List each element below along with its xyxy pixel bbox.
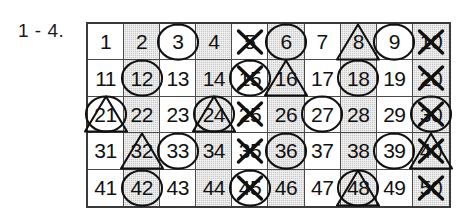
grid-cell[interactable]: 26 — [268, 97, 304, 133]
cell-number-label: 5 — [244, 31, 255, 52]
cell-number-label: 25 — [239, 104, 261, 125]
grid-cell[interactable]: 20 — [413, 60, 449, 96]
grid-cell[interactable]: 7 — [305, 24, 341, 60]
cell-number-label: 34 — [203, 140, 225, 161]
grid-cell[interactable]: 35 — [232, 133, 268, 169]
grid-cell[interactable]: 48 — [341, 170, 377, 206]
grid-cell[interactable]: 24 — [196, 97, 232, 133]
grid-cell[interactable]: 17 — [305, 60, 341, 96]
grid-cell[interactable]: 47 — [305, 170, 341, 206]
cell-number-label: 2 — [136, 31, 147, 52]
cell-number-label: 8 — [353, 31, 364, 52]
grid-cell[interactable]: 49 — [377, 170, 413, 206]
cell-number-label: 50 — [420, 177, 442, 198]
grid-cell[interactable]: 13 — [160, 60, 196, 96]
cell-number-label: 42 — [130, 177, 152, 198]
grid-cell[interactable]: 28 — [341, 97, 377, 133]
grid-cell[interactable]: 29 — [377, 97, 413, 133]
cell-number-label: 48 — [347, 177, 369, 198]
grid-cell[interactable]: 2 — [124, 24, 160, 60]
grid-cell[interactable]: 25 — [232, 97, 268, 133]
cell-number-label: 40 — [420, 140, 442, 161]
cell-number-label: 39 — [383, 140, 405, 161]
cell-number-label: 44 — [203, 177, 225, 198]
grid-cell[interactable]: 8 — [341, 24, 377, 60]
cell-number-label: 20 — [420, 68, 442, 89]
cell-number-label: 46 — [275, 177, 297, 198]
cell-number-label: 15 — [239, 68, 261, 89]
grid-cell[interactable]: 27 — [305, 97, 341, 133]
grid-cell[interactable]: 23 — [160, 97, 196, 133]
grid-cell[interactable]: 9 — [377, 24, 413, 60]
cell-number-label: 38 — [347, 140, 369, 161]
cell-number-label: 1 — [100, 31, 111, 52]
cell-number-label: 28 — [347, 104, 369, 125]
grid-cell[interactable]: 37 — [305, 133, 341, 169]
cell-number-label: 10 — [420, 31, 442, 52]
cell-number-label: 43 — [167, 177, 189, 198]
cell-number-label: 47 — [311, 177, 333, 198]
grid-cell[interactable]: 40 — [413, 133, 449, 169]
cell-number-label: 16 — [275, 68, 297, 89]
cell-number-label: 12 — [130, 68, 152, 89]
cell-number-label: 49 — [383, 177, 405, 198]
cell-number-label: 17 — [311, 68, 333, 89]
grid-cell[interactable]: 16 — [268, 60, 304, 96]
grid-cell[interactable]: 10 — [413, 24, 449, 60]
grid-cell[interactable]: 31 — [88, 133, 124, 169]
grid-cell[interactable]: 18 — [341, 60, 377, 96]
grid-cell[interactable]: 41 — [88, 170, 124, 206]
cell-number-label: 4 — [208, 31, 219, 52]
cell-number-label: 19 — [383, 68, 405, 89]
grid-cell[interactable]: 22 — [124, 97, 160, 133]
grid-cell[interactable]: 33 — [160, 133, 196, 169]
grid-cell[interactable]: 6 — [268, 24, 304, 60]
grid-cell[interactable]: 4 — [196, 24, 232, 60]
grid-cell[interactable]: 32 — [124, 133, 160, 169]
cell-number-label: 3 — [172, 31, 183, 52]
exercise-number-label: 1 - 4. — [18, 20, 64, 42]
cell-number-label: 23 — [167, 104, 189, 125]
grid-cell[interactable]: 38 — [341, 133, 377, 169]
grid-cell[interactable]: 44 — [196, 170, 232, 206]
grid-cell[interactable]: 12 — [124, 60, 160, 96]
grid-cell[interactable]: 15 — [232, 60, 268, 96]
cell-number-label: 45 — [239, 177, 261, 198]
cell-number-label: 36 — [275, 140, 297, 161]
cell-number-label: 18 — [347, 68, 369, 89]
cell-number-label: 14 — [203, 68, 225, 89]
grid-cell[interactable]: 21 — [88, 97, 124, 133]
grid-cell[interactable]: 11 — [88, 60, 124, 96]
cell-number-label: 22 — [130, 104, 152, 125]
cell-number-label: 41 — [94, 177, 116, 198]
cell-number-label: 35 — [239, 140, 261, 161]
grid-cell[interactable]: 45 — [232, 170, 268, 206]
cell-number-label: 9 — [389, 31, 400, 52]
grid-cell[interactable]: 34 — [196, 133, 232, 169]
cell-number-label: 30 — [420, 104, 442, 125]
cell-number-label: 21 — [94, 104, 116, 125]
number-grid: 1234567891011121314151617181920212223242… — [86, 22, 451, 208]
cell-number-label: 27 — [311, 104, 333, 125]
grid-cell[interactable]: 5 — [232, 24, 268, 60]
cell-number-label: 7 — [317, 31, 328, 52]
worksheet-page: 1 - 4. 123456789101112131415161718192021… — [0, 0, 465, 222]
cell-number-label: 33 — [167, 140, 189, 161]
cell-number-label: 31 — [94, 140, 116, 161]
grid-cell[interactable]: 43 — [160, 170, 196, 206]
grid-cell[interactable]: 1 — [88, 24, 124, 60]
cell-number-label: 26 — [275, 104, 297, 125]
cell-number-label: 13 — [167, 68, 189, 89]
cell-number-label: 11 — [95, 68, 116, 89]
grid-cell[interactable]: 14 — [196, 60, 232, 96]
grid-cell[interactable]: 39 — [377, 133, 413, 169]
grid-cell[interactable]: 50 — [413, 170, 449, 206]
grid-cell[interactable]: 46 — [268, 170, 304, 206]
grid-cell[interactable]: 3 — [160, 24, 196, 60]
grid-cell[interactable]: 19 — [377, 60, 413, 96]
grid-cell[interactable]: 42 — [124, 170, 160, 206]
grid-cell[interactable]: 30 — [413, 97, 449, 133]
grid-cell[interactable]: 36 — [268, 133, 304, 169]
cell-number-label: 6 — [280, 31, 291, 52]
cell-number-label: 37 — [311, 140, 333, 161]
